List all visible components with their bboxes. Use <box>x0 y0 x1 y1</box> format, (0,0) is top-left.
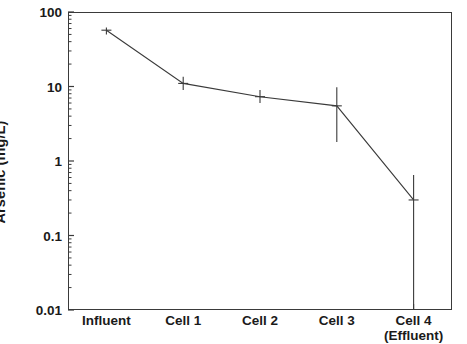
error-bars <box>106 27 413 310</box>
plot-svg <box>0 0 467 344</box>
series-markers-arsenic <box>101 30 418 200</box>
series-line-arsenic <box>106 30 413 200</box>
arsenic-log-line-chart: Arsenic (mg/L) 1001010.10.01 InfluentCel… <box>0 0 467 344</box>
y-axis-minor-ticks <box>68 15 72 287</box>
